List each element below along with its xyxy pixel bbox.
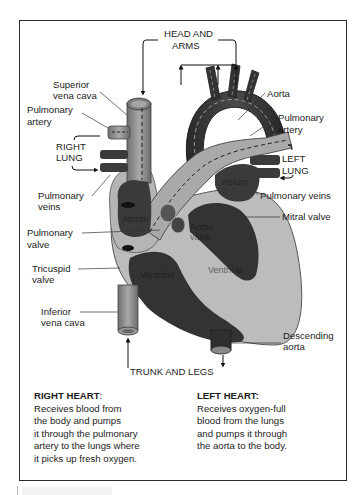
right-heart-description: RIGHT HEART: Receives blood from the bod…	[34, 390, 140, 465]
tricuspid-valve-label-2: valve	[32, 274, 54, 285]
pulmonary-valve-label-1: Pulmonary	[27, 227, 73, 238]
left-heart-title: LEFT HEART:	[197, 390, 287, 403]
superior-vena-cava-label-1: Superior	[53, 79, 90, 90]
left-ventricle-label: Ventricle	[208, 265, 243, 275]
pulmonary-valve-label-2: valve	[27, 239, 49, 250]
descending-aorta-label-2: aorta	[283, 341, 306, 352]
mitral-valve-label: Mitral valve	[282, 211, 331, 222]
inferior-vena-cava-label-2: vena cava	[41, 317, 85, 328]
pulmonary-artery-right-label-2: artery	[278, 124, 303, 135]
aortic-valve-label-2: valve	[190, 232, 211, 242]
pulmonary-artery-right-label-1: Pulmonary	[278, 112, 324, 123]
head-to-svc-arrow	[143, 40, 158, 93]
from-right-lung-arrow	[72, 166, 96, 170]
head-and-arms-label-1: HEAD AND	[164, 28, 213, 39]
head-and-arms-label-2: ARMS	[172, 40, 200, 51]
superior-vena-cava-label-2: vena cava	[53, 90, 97, 101]
head-bracket-line	[218, 40, 236, 65]
right-heart-line: the body and pumps	[34, 415, 140, 428]
right-heart-title: RIGHT HEART:	[34, 390, 140, 403]
aortic-valve-label-1: Aortic	[190, 222, 214, 232]
caption-placeholder	[22, 487, 112, 495]
left-atrium-label: Atrium	[222, 177, 248, 187]
left-heart-line: Receives oxygen-full	[197, 403, 287, 416]
pulmonary-veins-right-label: Pulmonary veins	[260, 190, 331, 201]
inferior-vena-cava-label-1: Inferior	[41, 306, 72, 317]
left-heart-line: blood from the lungs	[197, 415, 287, 428]
right-lung-label-2: LUNG	[56, 152, 83, 163]
left-lung-label-1: LEFT	[282, 153, 306, 164]
right-pulmonary-veins	[100, 150, 128, 172]
superior-vena-cava	[127, 98, 151, 183]
right-ventricle-label: Ventricle	[140, 270, 175, 280]
tricuspid-valve-label-1: Tricuspid	[32, 263, 71, 274]
right-lung-label-1: RIGHT	[56, 141, 86, 152]
left-lung-label-2: LUNG	[282, 165, 309, 176]
right-heart-line: artery to the lungs where	[34, 440, 140, 453]
caption-divider	[17, 486, 18, 495]
right-atrium-label: Atrium	[122, 214, 148, 224]
right-heart-line: Receives blood from	[34, 403, 140, 416]
to-right-lung-arrow	[74, 136, 100, 140]
left-heart-line: the aorta to the body.	[197, 440, 287, 453]
pulmonary-artery-left-label-2: artery	[27, 116, 52, 127]
pulmonary-veins-left-label-1: Pulmonary	[38, 190, 84, 201]
pulmonary-veins-left-label-2: veins	[38, 201, 61, 212]
right-heart-line: it picks up fresh oxygen.	[34, 453, 140, 466]
right-pulmonary-artery	[108, 126, 130, 139]
pulmonary-artery-left-label-1: Pulmonary	[27, 104, 73, 115]
left-heart-description: LEFT HEART: Receives oxygen-full blood f…	[197, 390, 287, 453]
descending-aorta-label-1: Descending	[283, 330, 334, 341]
aorta-label: Aorta	[267, 88, 291, 99]
aortic-valve-shape	[171, 217, 185, 233]
trunk-and-legs-label: TRUNK AND LEGS	[130, 366, 214, 377]
inferior-vena-cava	[118, 285, 138, 335]
right-heart-line: it through the pulmonary	[34, 428, 140, 441]
descending-aorta	[211, 330, 231, 354]
left-heart-line: and pumps it through	[197, 428, 287, 441]
